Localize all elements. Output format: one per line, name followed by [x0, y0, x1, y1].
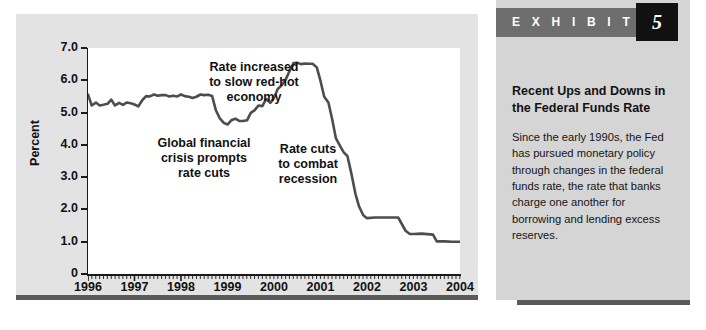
exhibit-title: Recent Ups and Downs in the Federal Fund… [512, 83, 674, 116]
y-axis-tick-label: 0 [71, 266, 78, 280]
chart-panel-bottom-rule [16, 295, 478, 300]
y-axis-tick-mark [81, 47, 87, 49]
exhibit-number: 5 [636, 3, 678, 41]
annotation-rate-cuts-recession: Rate cuts to combat recession [260, 142, 356, 186]
y-axis-tick-mark [81, 208, 87, 210]
exhibit-body-text: Since the early 1990s, the Fed has pursu… [512, 129, 676, 243]
chart-panel: Percent 01.02.03.04.05.06.07.0 199619971… [16, 14, 478, 295]
y-axis-tick-mark [81, 176, 87, 178]
y-axis-tick-label: 1.0 [61, 234, 78, 248]
annotation-global-financial-crisis: Global financial crisis prompts rate cut… [142, 136, 266, 180]
y-axis-tick-mark [81, 273, 87, 275]
y-axis-tick-label: 7.0 [61, 40, 78, 54]
x-axis-tick-label: 2003 [400, 280, 428, 294]
exhibit-panel: E X H I B I T 5 Recent Ups and Downs in … [496, 0, 690, 300]
y-axis-tick-labels: 01.02.03.04.05.06.07.0 [16, 14, 78, 295]
x-axis-tick-label: 1996 [74, 280, 102, 294]
annotation-rate-increased: Rate increased to slow red-hot economy [192, 60, 316, 104]
x-axis-tick-label: 2000 [260, 280, 288, 294]
y-axis-tick-label: 5.0 [61, 105, 78, 119]
x-axis-tick-label: 2004 [446, 280, 474, 294]
exhibit-header-label: E X H I B I T [512, 8, 638, 37]
y-axis-tick-label: 2.0 [61, 201, 78, 215]
y-axis-tick-label: 4.0 [61, 137, 78, 151]
y-axis-tick-label: 3.0 [61, 169, 78, 183]
y-axis-tick-mark [81, 241, 87, 243]
x-axis-tick-label: 1997 [121, 280, 149, 294]
y-axis-tick-mark [81, 79, 87, 81]
y-axis-tick-label: 6.0 [61, 72, 78, 86]
y-axis-tick-mark [81, 112, 87, 114]
x-axis-tick-label: 2001 [307, 280, 335, 294]
x-axis-tick-label: 2002 [353, 280, 381, 294]
x-axis-tick-label: 1998 [167, 280, 195, 294]
exhibit-panel-bottom-rule [517, 300, 690, 305]
x-axis-tick-label: 1999 [214, 280, 242, 294]
y-axis-tick-mark [81, 144, 87, 146]
